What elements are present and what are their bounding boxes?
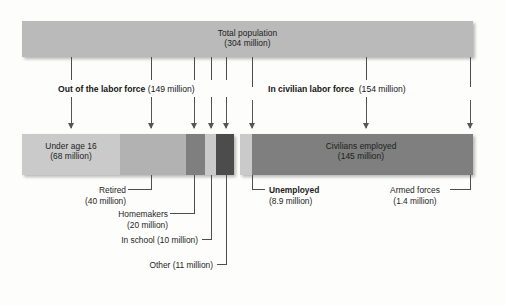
callout-line-in-school-vert <box>211 175 212 239</box>
callout-line-retired-horiz <box>128 189 152 190</box>
callout-retired-title: Retired <box>20 185 126 196</box>
callout-line-retired-vert <box>151 175 152 189</box>
segment-other <box>216 134 234 175</box>
total-population-label: Total population (304 million) <box>22 28 473 49</box>
arrow-in-school <box>211 100 212 128</box>
total-population-title: Total population <box>22 28 473 38</box>
segment-unemployed <box>240 134 252 175</box>
callout-line-armed-forces-vert <box>470 175 471 189</box>
callout-line-in-school-horiz <box>202 239 212 240</box>
arrow-retired <box>151 100 152 128</box>
population-breakdown-diagram: Total population (304 million) Out of th… <box>0 0 505 306</box>
segment-armed-forces <box>470 134 473 175</box>
tick-line-retired <box>151 57 152 80</box>
callout-other: Other (11 million) <box>105 260 213 271</box>
tick-line-other <box>226 57 227 80</box>
tick-line-civilians-employed <box>366 57 367 80</box>
callout-line-unemployed-horiz <box>252 189 265 190</box>
arrow-unemployed <box>252 100 253 128</box>
callout-line-other-vert <box>226 175 227 264</box>
callout-line-armed-forces-horiz <box>450 189 471 190</box>
total-population-value: (304 million) <box>22 38 473 48</box>
callout-retired-value: (40 million) <box>20 196 126 207</box>
callout-armed-forces-title: Armed forces <box>381 185 449 196</box>
group-label-out-of-labor-force: Out of the labor force (149 million) <box>58 84 195 94</box>
tick-line-armed-forces <box>470 57 471 87</box>
group-label-out-of-labor-force-name: Out of the labor force <box>58 84 145 94</box>
callout-unemployed-value: (8.9 million) <box>269 196 389 207</box>
under-age-16-title: Under age 16 <box>22 141 120 151</box>
callout-homemakers-value: (20 million) <box>58 220 168 231</box>
arrow-under-age-16 <box>71 100 72 128</box>
callout-other-text: Other (11 million) <box>105 260 213 271</box>
group-label-in-civilian-labor-force-value: (154 million) <box>359 84 406 94</box>
callout-unemployed-title: Unemployed <box>269 185 389 196</box>
under-age-16-label: Under age 16 (68 million) <box>22 141 120 162</box>
callout-line-other-horiz <box>217 264 227 265</box>
callout-armed-forces: Armed forces (1.4 million) <box>381 185 449 206</box>
callout-unemployed: Unemployed (8.9 million) <box>269 185 389 206</box>
group-label-in-civilian-labor-force: In civilian labor force (154 million) <box>268 84 406 94</box>
arrow-civilians-employed <box>366 100 367 128</box>
group-label-in-civilian-labor-force-name: In civilian labor force <box>268 84 354 94</box>
arrow-homemakers <box>194 100 195 128</box>
tick-line-under-age-16 <box>71 57 72 80</box>
callout-homemakers: Homemakers (20 million) <box>58 209 168 230</box>
callout-homemakers-title: Homemakers <box>58 209 168 220</box>
civilians-employed-title: Civilians employed <box>252 141 470 151</box>
callout-line-homemakers-vert <box>194 175 195 213</box>
callout-retired: Retired (40 million) <box>20 185 126 206</box>
under-age-16-value: (68 million) <box>22 151 120 161</box>
tick-line-in-school <box>211 57 212 80</box>
segment-retired <box>120 134 186 175</box>
callout-line-homemakers-horiz <box>170 213 195 214</box>
segment-in-school <box>205 134 216 175</box>
tick-line-homemakers <box>194 57 195 80</box>
callout-line-unemployed-vert <box>252 175 253 189</box>
arrow-armed-forces <box>470 100 471 128</box>
civilians-employed-value: (145 million) <box>252 151 470 161</box>
segment-homemakers <box>186 134 205 175</box>
callout-in-school: In school (10 million) <box>90 235 198 246</box>
arrow-other <box>226 100 227 128</box>
civilians-employed-label: Civilians employed (145 million) <box>252 141 470 162</box>
callout-armed-forces-value: (1.4 million) <box>381 196 449 207</box>
group-label-out-of-labor-force-value: (149 million) <box>148 84 195 94</box>
tick-line-unemployed <box>252 57 253 87</box>
callout-in-school-text: In school (10 million) <box>90 235 198 246</box>
